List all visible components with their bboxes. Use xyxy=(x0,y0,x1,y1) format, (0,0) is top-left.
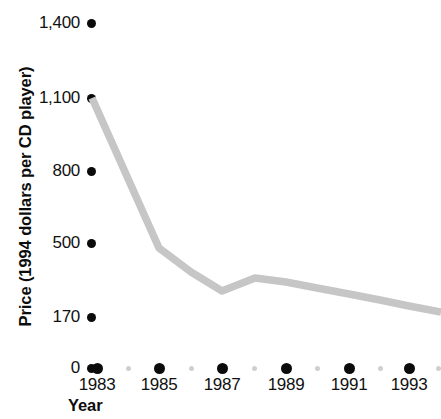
x-tick-label-1993: 1993 xyxy=(379,376,439,394)
x-minor-tick-dot-1992 xyxy=(378,366,383,371)
x-tick-dot-1983 xyxy=(92,363,103,374)
x-tick-label-1983: 1983 xyxy=(67,376,127,394)
x-tick-label-1985: 1985 xyxy=(129,376,189,394)
x-tick-label-1991: 1991 xyxy=(319,376,379,394)
price-line-path xyxy=(92,98,441,312)
x-tick-label-1987: 1987 xyxy=(192,376,252,394)
x-tick-dot-1985 xyxy=(154,363,165,374)
cd-player-price-chart: Price (1994 dollars per CD player) 1,400… xyxy=(0,0,441,419)
x-minor-tick-dot-1988 xyxy=(252,366,257,371)
x-tick-dot-1991 xyxy=(344,363,355,374)
x-tick-label-1989: 1989 xyxy=(256,376,316,394)
x-tick-dot-1989 xyxy=(281,363,292,374)
x-tick-dot-1993 xyxy=(404,363,415,374)
x-axis-title: Year xyxy=(68,396,102,415)
x-minor-tick-dot-1990 xyxy=(315,366,320,371)
x-minor-tick-dot-1994 xyxy=(436,366,441,371)
x-minor-tick-dot-1984 xyxy=(126,366,131,371)
x-tick-dot-1987 xyxy=(217,363,228,374)
price-line-series xyxy=(0,0,441,419)
x-minor-tick-dot-1986 xyxy=(189,366,194,371)
